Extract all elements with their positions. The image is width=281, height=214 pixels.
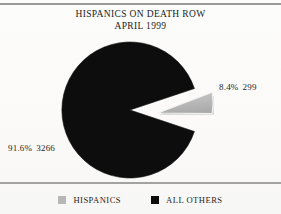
pie-plot-area (0, 0, 281, 184)
bottom-divider-rule (0, 182, 281, 184)
pie-svg (0, 0, 281, 184)
legend-swatch-all-others-icon (151, 196, 159, 204)
legend-swatch-hispanics-icon (58, 196, 66, 204)
chart-legend: HISPANICS ALL OTHERS (0, 195, 281, 205)
slice-label-hispanics-value: 299 (243, 82, 257, 92)
slice-label-hispanics: 8.4%299 (219, 82, 257, 92)
slice-label-all-others-percent: 91.6% (8, 143, 32, 153)
pie-chart-figure: HISPANICS ON DEATH ROW APRIL 1999 91.6%3… (0, 0, 281, 214)
slice-label-all-others-value: 3266 (36, 143, 55, 153)
slice-label-all-others: 91.6%3266 (8, 143, 55, 153)
slice-label-hispanics-percent: 8.4% (219, 82, 239, 92)
legend-label-all-others: ALL OTHERS (166, 195, 222, 205)
legend-label-hispanics: HISPANICS (73, 195, 121, 205)
legend-item-hispanics: HISPANICS (58, 195, 121, 205)
legend-item-all-others: ALL OTHERS (151, 195, 222, 205)
